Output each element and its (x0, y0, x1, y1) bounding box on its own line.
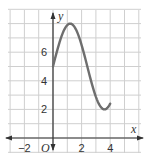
x-axis-arrow-right-icon (137, 136, 144, 141)
origin-label: O (41, 141, 50, 155)
y-tick-label: 6 (41, 46, 47, 58)
y-axis-arrow-down-icon (51, 144, 56, 151)
axes (5, 12, 144, 151)
x-axis-label: x (130, 122, 137, 136)
x-tick-label: 2 (79, 142, 85, 154)
x-axis-arrow-left-icon (5, 136, 12, 141)
y-axis-arrow-up-icon (51, 12, 56, 19)
y-axis-label: y (57, 9, 64, 23)
y-tick-label: 4 (41, 75, 47, 87)
x-tick-label: 4 (107, 142, 113, 154)
y-tick-label: 2 (41, 103, 47, 115)
grid-lines (8, 9, 141, 153)
chart-canvas: −224246 x y O (0, 0, 148, 159)
x-tick-label: −2 (18, 142, 31, 154)
